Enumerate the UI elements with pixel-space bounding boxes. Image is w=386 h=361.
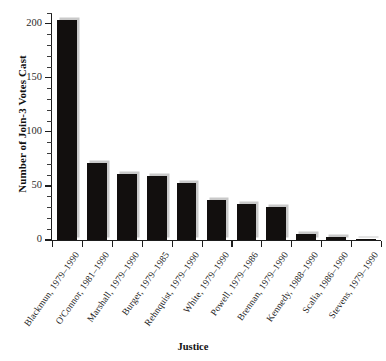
y-tick-label: 200 (12, 18, 42, 29)
y-tick-major (45, 131, 52, 132)
y-tick-major (45, 239, 52, 240)
bar (177, 183, 197, 240)
y-tick-label: 100 (12, 126, 42, 137)
x-tick (172, 241, 173, 247)
bar-chart: Number of Join-3 Votes Cast 050100150200… (0, 0, 386, 361)
x-axis-title: Justice (0, 341, 386, 352)
y-tick-label: 50 (12, 180, 42, 191)
bar (237, 204, 257, 240)
x-tick (321, 241, 322, 247)
y-tick-label: 150 (12, 72, 42, 83)
x-tick (291, 241, 292, 247)
x-tick (82, 241, 83, 247)
bar (57, 20, 77, 241)
bar (266, 207, 286, 241)
bar (326, 237, 346, 240)
y-tick-major (45, 185, 52, 186)
y-tick-major (45, 77, 52, 78)
x-tick (112, 241, 113, 247)
x-tick (381, 241, 382, 247)
x-tick (261, 241, 262, 247)
bar (117, 174, 137, 240)
bar (207, 200, 227, 240)
x-tick (231, 241, 232, 247)
y-axis-title: Number of Join-3 Votes Cast (16, 24, 28, 224)
plot-area (52, 13, 381, 240)
y-tick-label: 0 (12, 234, 42, 245)
x-tick (142, 241, 143, 247)
x-tick (351, 241, 352, 247)
x-axis-line (51, 240, 381, 241)
bar (296, 234, 316, 240)
bar (87, 163, 107, 240)
bar (147, 176, 167, 240)
bar (356, 239, 376, 240)
y-tick-major (45, 23, 52, 24)
x-tick (202, 241, 203, 247)
x-tick (52, 241, 53, 247)
